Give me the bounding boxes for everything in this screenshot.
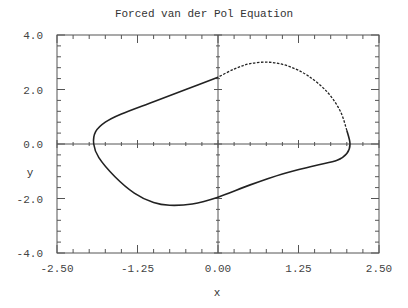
x-tick-label: -1.25 bbox=[121, 263, 154, 275]
x-tick-label: 0.00 bbox=[205, 263, 231, 275]
y-axis-label: y bbox=[27, 167, 34, 179]
x-tick-label: 2.50 bbox=[366, 263, 392, 275]
y-tick-label: 4.0 bbox=[23, 30, 43, 42]
x-tick-label: 1.25 bbox=[285, 263, 311, 275]
y-tick-label: 2.0 bbox=[23, 85, 43, 97]
y-tick-label: -4.0 bbox=[17, 248, 43, 260]
curve-solid bbox=[94, 77, 351, 205]
x-tick-label: -2.50 bbox=[40, 263, 73, 275]
y-tick-label: 0.0 bbox=[23, 139, 43, 151]
data-curves bbox=[94, 62, 351, 205]
y-tick-label: -2.0 bbox=[17, 194, 43, 206]
curve-dashed bbox=[218, 62, 347, 130]
tick-labels: -2.50-1.250.001.252.504.02.00.0-2.0-4.0 bbox=[17, 30, 393, 275]
x-axis-label: x bbox=[214, 287, 221, 299]
axis-ticks bbox=[57, 35, 379, 253]
chart-plot: -2.50-1.250.001.252.504.02.00.0-2.0-4.0 … bbox=[0, 0, 408, 308]
